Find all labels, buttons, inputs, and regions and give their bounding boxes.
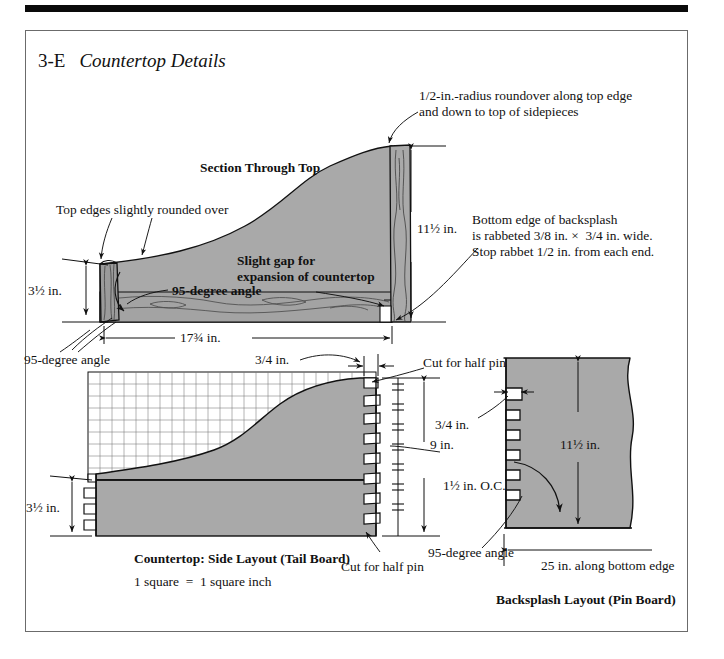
leader-backsplash-pin — [478, 396, 508, 418]
caption-backsplash-layout: Backsplash Layout (Pin Board) — [496, 592, 676, 608]
oc-tick-column — [392, 378, 404, 536]
callout-roundover: 1/2-in.-radius roundover along top edge … — [419, 88, 632, 120]
dim-label-top-width: 17¾ in. — [180, 330, 221, 346]
backsplash-layout-drawing — [478, 358, 652, 566]
dim-label-oc: 1½ in. O.C. — [443, 478, 506, 494]
dim-label-side-left-height: 3½ in. — [26, 500, 60, 516]
leader-roundover — [389, 112, 418, 143]
tail-board-left-dovetails — [84, 474, 96, 530]
section-through-top-drawing — [62, 112, 478, 352]
leader-pin-width — [300, 355, 360, 362]
callout-rabbet: Bottom edge of backsplash is rabbeted 3/… — [472, 212, 654, 260]
dim-label-pin-width-top: 3/4 in. — [255, 352, 289, 368]
leader-angle-lower-left-2 — [78, 322, 116, 352]
figure-page: 3-ECountertop Details — [0, 0, 724, 659]
leader-angle-lower-left — [72, 318, 112, 350]
dim-label-9in: 9 in. — [430, 437, 454, 453]
dim-side-height-9in — [382, 378, 440, 536]
dim-label-backsplash-height: 11½ in. — [560, 437, 600, 453]
dim-label-bottom-edge: 25 in. along bottom edge — [541, 558, 675, 574]
callout-half-pin-top: Cut for half pin — [423, 355, 506, 371]
caption-side-layout-note: 1 square = 1 square inch — [134, 574, 271, 590]
backsplash-rabbet — [380, 306, 391, 322]
dim-label-angle-sidelayout: 95-degree angle — [24, 352, 110, 368]
caption-side-layout: Countertop: Side Layout (Tail Board) — [134, 551, 350, 567]
left-sidepiece — [100, 263, 119, 322]
callout-expansion-gap: Slight gap for expansion of countertop — [237, 253, 375, 285]
dim-label-backsplash-pin: 3/4 in. — [435, 417, 469, 433]
callout-half-pin-bottom: Cut for half pin — [341, 559, 424, 575]
dim-top-width — [104, 326, 392, 344]
section-heading: Section Through Top — [200, 160, 320, 176]
dim-label-angle-section: 95-degree angle — [172, 283, 261, 299]
tail-board-body — [96, 480, 376, 536]
leader-top-edge-b — [142, 218, 152, 255]
leader-angle-sidelayout — [60, 330, 90, 352]
dim-label-left-height: 3½ in. — [28, 283, 62, 299]
callout-top-edges: Top edges slightly rounded over — [56, 202, 228, 218]
dim-label-backsplash-angle: 95-degree angle — [428, 545, 514, 561]
dim-label-right-height: 11½ in. — [417, 221, 457, 237]
leader-top-edge-a — [101, 218, 112, 259]
